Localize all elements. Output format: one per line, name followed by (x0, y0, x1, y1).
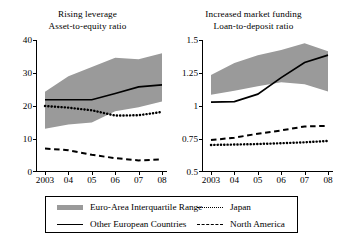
y-tick-mark (199, 139, 202, 140)
y-tick-mark (199, 171, 202, 172)
y-tick-label: 1 (193, 102, 198, 111)
legend-item-euro-area-interquartile-range: Euro-Area Interquartile Range (57, 199, 202, 215)
x-axis-labels-left: 20030405060708 (36, 175, 168, 189)
plot-area-left: 010203040 20030405060708 (0, 40, 175, 188)
y-tick-label: 40 (23, 36, 32, 45)
x-tick-label: 05 (87, 175, 96, 185)
axes-right (202, 40, 334, 172)
y-tick-label: 1.5 (187, 36, 198, 45)
y-axis-labels-right: 0.50.7511.251.5 (166, 40, 200, 172)
axes-left (36, 40, 168, 172)
x-tick-label: 07 (300, 175, 309, 185)
y-tick-mark (33, 106, 36, 107)
legend-swatch-dotted-line-icon (197, 201, 223, 213)
x-tick-label: 07 (134, 175, 143, 185)
chart-title-line2: Loan-to-deposit ratio (166, 20, 341, 32)
chart-title-line1: Increased market funding (166, 8, 341, 20)
plot-area-right: 0.50.7511.251.5 20030405060708 (166, 40, 341, 188)
chart-title-line2: Asset-to-equity ratio (0, 20, 175, 32)
legend-row-2: Other European Countries North America (46, 216, 297, 232)
y-tick-label: 10 (23, 135, 32, 144)
x-tick-label: 04 (230, 175, 239, 185)
y-tick-mark (33, 139, 36, 140)
legend-item-japan: Japan (197, 199, 251, 215)
y-tick-mark (33, 40, 36, 41)
x-tick-label: 06 (111, 175, 120, 185)
series-line-japan (211, 141, 328, 145)
legend-swatch-dashed-line-icon (197, 218, 223, 230)
series-line-north-america (45, 149, 162, 161)
series-plot-left (37, 40, 168, 172)
x-tick-label: 05 (253, 175, 262, 185)
y-axis-labels-left: 010203040 (0, 40, 34, 172)
y-tick-label: 1.25 (182, 69, 198, 78)
band-interquartile-range (45, 53, 162, 129)
x-axis-labels-right: 20030405060708 (202, 175, 334, 189)
legend-label: Japan (230, 202, 251, 212)
y-tick-label: 30 (23, 69, 32, 78)
chart-panel-left: Rising leverage Asset-to-equity ratio 01… (0, 0, 175, 196)
legend-row-1: Euro-Area Interquartile Range Japan (46, 199, 297, 215)
y-tick-label: 0.5 (187, 168, 198, 177)
y-tick-mark (199, 106, 202, 107)
legend-swatch-solid-line-icon (57, 218, 83, 230)
legend-swatch-band-icon (57, 201, 83, 213)
y-tick-label: 20 (23, 102, 32, 111)
band-interquartile-range (211, 43, 328, 94)
y-tick-mark (199, 73, 202, 74)
chart-title-left: Rising leverage Asset-to-equity ratio (0, 8, 175, 32)
chart-title-line1: Rising leverage (0, 8, 175, 20)
x-tick-label: 06 (277, 175, 286, 185)
legend-label: North America (230, 219, 285, 229)
legend-item-other-european-countries: Other European Countries (57, 216, 186, 232)
legend-label: Euro-Area Interquartile Range (90, 202, 202, 212)
series-line-north-america (211, 126, 328, 140)
series-plot-right (203, 40, 334, 172)
chart-title-right: Increased market funding Loan-to-deposit… (166, 8, 341, 32)
y-tick-label: 0.75 (182, 135, 198, 144)
legend-item-north-america: North America (197, 216, 285, 232)
chart-legend: Euro-Area Interquartile Range Japan Othe… (45, 196, 298, 233)
figure-root: Rising leverage Asset-to-equity ratio 01… (0, 0, 341, 244)
x-tick-label: 04 (64, 175, 73, 185)
y-tick-mark (33, 73, 36, 74)
legend-label: Other European Countries (90, 219, 186, 229)
x-tick-label: 08 (323, 175, 332, 185)
x-tick-label: 2003 (36, 175, 54, 185)
x-tick-label: 2003 (202, 175, 220, 185)
y-tick-mark (199, 40, 202, 41)
y-tick-mark (33, 171, 36, 172)
chart-panel-right: Increased market funding Loan-to-deposit… (166, 0, 341, 196)
y-tick-label: 0 (27, 168, 32, 177)
